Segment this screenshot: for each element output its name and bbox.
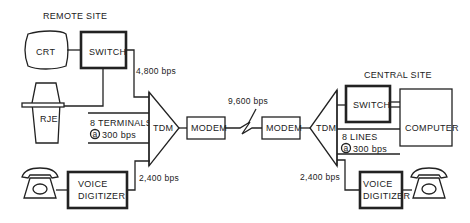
telephone-icon [411,168,447,198]
central-tdm: TDM [310,90,337,166]
svg-text:DIGITIZER: DIGITIZER [78,191,125,201]
telephone-icon [22,168,58,198]
svg-text:300 bps: 300 bps [353,144,387,154]
central-switch: SWITCH [346,86,390,122]
network-diagram: REMOTE SITE CRT SWITCH 4,800 bps RJE 8 T… [0,0,470,223]
svg-text:DIGITIZER: DIGITIZER [363,191,410,201]
lines-label: 8 LINES [342,132,378,142]
rate-2400-remote: 2,400 bps [139,173,179,183]
remote-tdm-label: TDM [153,123,173,133]
central-site-title: CENTRAL SITE [364,70,432,80]
svg-text:VOICE: VOICE [78,179,108,189]
svg-text:a: a [93,129,98,139]
remote-modem-label: MODEM [191,123,227,133]
crt-label: CRT [36,47,55,57]
remote-voice-digitizer: VOICE DIGITIZER [68,172,127,208]
central-modem-label: MODEM [266,123,302,133]
rate-2400-central: 2,400 bps [300,172,340,182]
computer-label: COMPUTER [405,123,459,133]
remote-site-title: REMOTE SITE [43,11,107,21]
central-tdm-label: TDM [316,123,336,133]
terminals-label: 8 TERMINALS [90,118,152,128]
central-switch-label: SWITCH [353,100,390,110]
svg-text:300 bps: 300 bps [102,130,136,140]
svg-text:VOICE: VOICE [363,179,393,189]
remote-switch: SWITCH [81,32,126,68]
remote-switch-label: SWITCH [89,47,126,57]
remote-tdm: TDM [149,92,179,166]
rje-terminal: RJE [22,83,64,143]
central-modem: MODEM [262,117,302,139]
rate-4800: 4,800 bps [136,66,176,76]
remote-modem: MODEM [187,117,227,139]
computer: COMPUTER [400,89,459,146]
rje-label: RJE [40,114,58,124]
svg-text:a: a [344,143,349,153]
crt-terminal: CRT [25,31,68,69]
link-rate: 9,600 bps [228,96,268,106]
